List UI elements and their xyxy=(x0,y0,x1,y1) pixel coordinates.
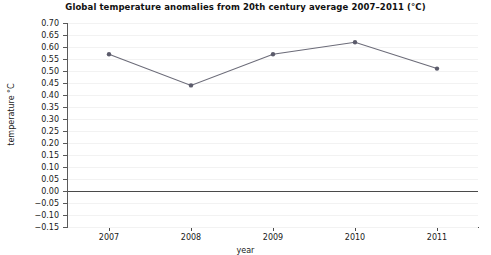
x-tick-label: 2008 xyxy=(181,233,201,242)
y-tick-label: 0.15 xyxy=(41,151,59,160)
data-point-marker xyxy=(189,83,193,87)
y-tick-label: 0.55 xyxy=(41,55,59,64)
data-point-marker xyxy=(107,52,111,56)
data-point-marker xyxy=(271,52,275,56)
y-tick-label: 0.35 xyxy=(41,103,59,112)
y-tick-label: 0.05 xyxy=(41,175,59,184)
y-tick-label: 0.60 xyxy=(41,43,59,52)
x-tick-label: 2011 xyxy=(427,233,447,242)
x-tick-label: 2009 xyxy=(263,233,283,242)
y-tick-label: 0.30 xyxy=(41,115,59,124)
data-series-line xyxy=(68,23,478,227)
plot-area xyxy=(68,23,478,227)
data-line xyxy=(109,42,437,85)
x-tick-label: 2007 xyxy=(99,233,119,242)
y-tick-label: −0.05 xyxy=(34,199,59,208)
y-tick-label: 0.70 xyxy=(41,19,59,28)
data-point-marker xyxy=(435,66,439,70)
y-tick-label: 0.50 xyxy=(41,67,59,76)
y-tick-label: 0.00 xyxy=(41,187,59,196)
x-tick-label: 2010 xyxy=(345,233,365,242)
chart-title: Global temperature anomalies from 20th c… xyxy=(0,2,491,12)
y-tick-label: 0.20 xyxy=(41,139,59,148)
y-tick-label: 0.40 xyxy=(41,91,59,100)
y-axis-label: temperature °C xyxy=(7,60,16,170)
y-tick-label: 0.25 xyxy=(41,127,59,136)
y-tick-label: 0.45 xyxy=(41,79,59,88)
y-tick-label: 0.65 xyxy=(41,31,59,40)
data-point-marker xyxy=(353,40,357,44)
x-axis-label: year xyxy=(0,246,491,255)
y-tick-label: 0.10 xyxy=(41,163,59,172)
y-tick-label: −0.15 xyxy=(34,223,59,232)
y-tick-label: −0.10 xyxy=(34,211,59,220)
gridline xyxy=(68,227,478,228)
